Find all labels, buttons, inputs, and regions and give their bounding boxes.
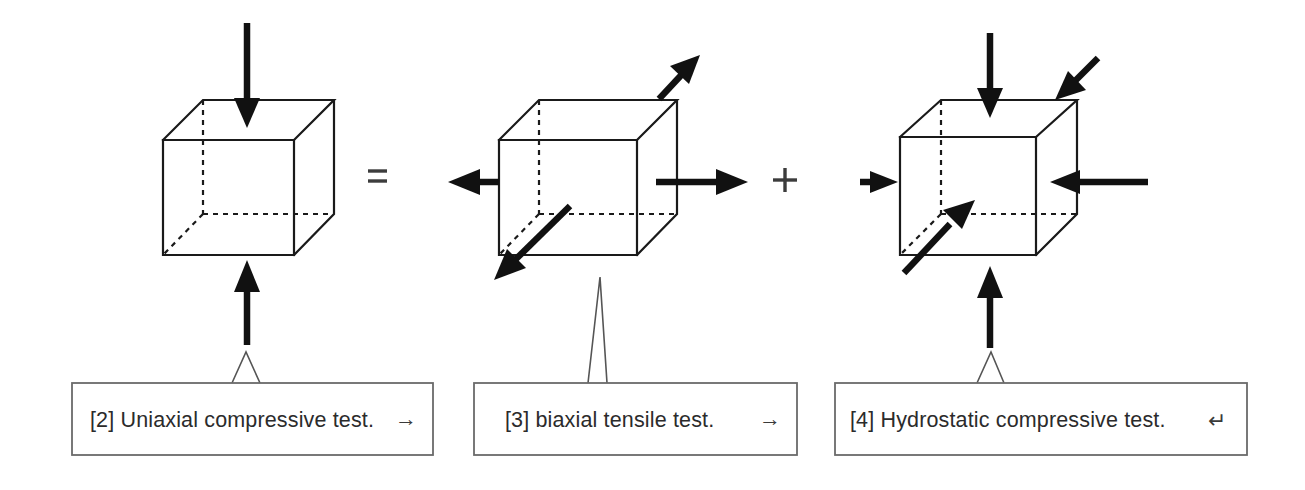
- figure-canvas: [2] Uniaxial compressive test. → [3] bia…: [0, 0, 1305, 490]
- stress-decomposition-diagram: [2] Uniaxial compressive test. → [3] bia…: [0, 0, 1305, 490]
- return-arrow-glyph: ↵: [1208, 408, 1226, 433]
- equals-sign: [368, 171, 387, 181]
- cube-hydrostatic-visible-edges: [900, 100, 1077, 255]
- cube-hydrostatic-right-inward-compression-arrow: [1050, 170, 1148, 194]
- callout-leaders: [232, 277, 1004, 383]
- cube-uniaxial-bottom-up-compression-arrow: [234, 260, 260, 345]
- cube-hydrostatic-bottom-up-compression-arrow: [977, 266, 1003, 348]
- cube-biaxial-visible-edges: [499, 100, 677, 255]
- callout-3-label: [3] biaxial tensile test.: [505, 408, 714, 432]
- callout-4-label: [4] Hydrostatic compressive test.: [850, 408, 1166, 432]
- callout-3-leader: [588, 277, 607, 383]
- callout-4-leader: [977, 352, 1004, 383]
- plus-sign: [773, 168, 797, 192]
- cube-hydrostatic-left-inward-compression-arrow: [860, 171, 898, 193]
- right-arrow-glyph: →: [759, 406, 781, 431]
- cube-hydrostatic-top-down-compression-arrow: [977, 33, 1003, 118]
- cube-hydrostatic-front-lower-left-inward-compression-arrow: [904, 200, 975, 273]
- callout-2-label: [2] Uniaxial compressive test.: [90, 408, 374, 432]
- cube-biaxial: [448, 55, 748, 280]
- callout-4[interactable]: [4] Hydrostatic compressive test. ↵: [835, 383, 1247, 455]
- cube-biaxial-back-upper-right-outward-tension-arrow: [659, 55, 700, 99]
- right-arrow-glyph: →: [395, 406, 417, 431]
- callout-2[interactable]: [2] Uniaxial compressive test. →: [72, 383, 433, 455]
- cube-biaxial-right-outward-tension-arrow: [656, 169, 748, 195]
- callout-3[interactable]: [3] biaxial tensile test. →: [474, 383, 797, 455]
- cube-biaxial-hidden-edges: [499, 100, 677, 255]
- cube-uniaxial-top-down-compression-arrow: [234, 23, 260, 128]
- cube-hydrostatic-back-upper-right-inward-compression-arrow: [1055, 58, 1098, 100]
- cube-uniaxial: [163, 23, 334, 345]
- cube-hydrostatic: [860, 33, 1148, 348]
- cube-biaxial-left-outward-tension-arrow: [448, 169, 499, 195]
- callout-2-leader: [232, 352, 260, 383]
- cube-biaxial-front-lower-left-outward-tension-arrow: [494, 206, 570, 280]
